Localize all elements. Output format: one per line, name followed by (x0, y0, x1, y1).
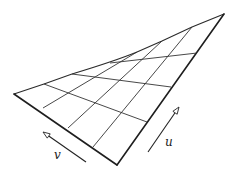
v-arrowhead-icon (43, 132, 50, 138)
u-label: u (165, 135, 173, 149)
v-label: v (54, 148, 61, 162)
u-arrowhead-icon (173, 107, 179, 114)
parameter-arrows (43, 107, 179, 162)
grid-cross-line-3 (110, 53, 197, 63)
ruled-surface-diagram: v u (0, 0, 237, 171)
top-edge (14, 14, 224, 94)
grid-u-line-1 (43, 52, 137, 108)
surface-patch (14, 14, 224, 165)
lower-left-edge (14, 94, 117, 165)
grid-cross-line-2 (72, 74, 171, 87)
